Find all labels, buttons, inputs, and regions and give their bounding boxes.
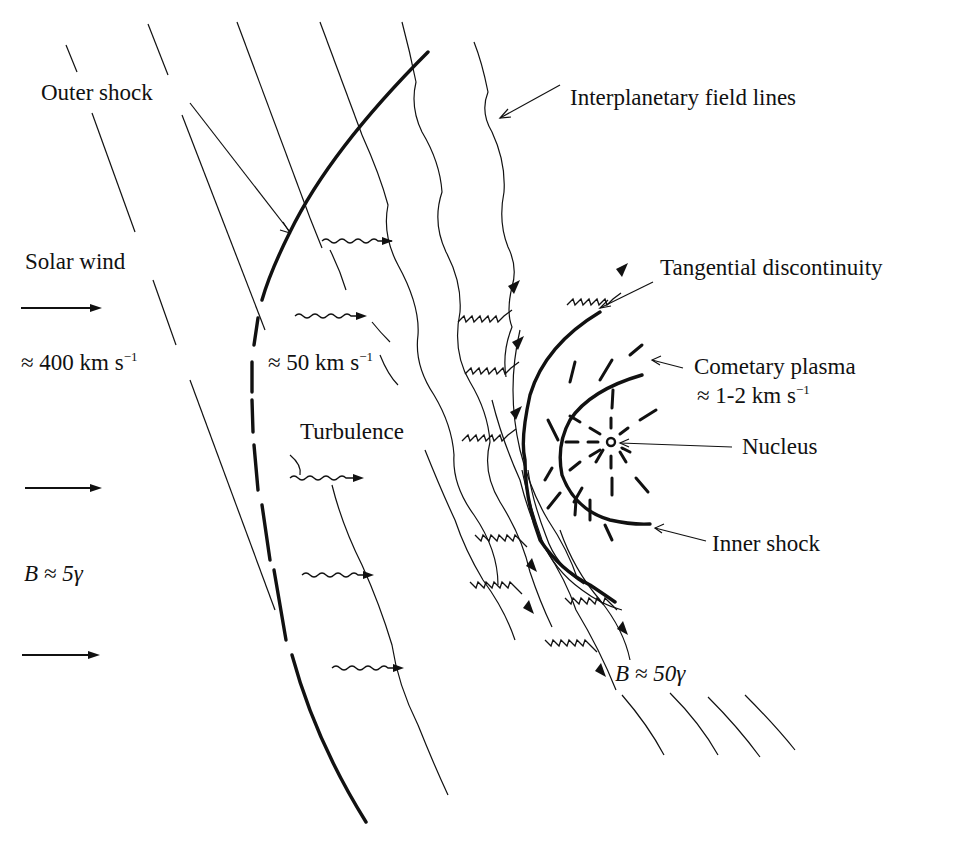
solar-wind-speed-exponent: −1 <box>124 349 138 364</box>
diagram-artwork <box>0 0 965 845</box>
label-turbulence: Turbulence <box>300 420 404 443</box>
cometary-plasma-speed-value: ≈ 1-2 km s <box>697 383 796 408</box>
label-cometary-plasma: Cometary plasma <box>694 355 856 378</box>
label-post-shock-speed: ≈ 50 km s−1 <box>268 350 373 374</box>
b-downstream-symbol: B <box>615 661 629 686</box>
label-outer-shock: Outer shock <box>41 81 153 104</box>
upstream-field-lines <box>66 22 362 610</box>
post-shock-speed-exponent: −1 <box>359 349 373 364</box>
post-shock-speed-value: ≈ 50 km s <box>268 350 359 375</box>
label-inner-shock: Inner shock <box>712 532 820 555</box>
wavy-field-lines <box>290 22 795 795</box>
label-tangential-discontinuity: Tangential discontinuity <box>660 256 883 279</box>
label-pointers <box>190 85 732 541</box>
b-upstream-symbol: B <box>24 561 38 586</box>
nucleus-marker <box>607 438 615 446</box>
label-nucleus: Nucleus <box>742 435 817 458</box>
b-downstream-value: ≈ 50γ <box>629 661 685 686</box>
label-b-upstream: B ≈ 5γ <box>24 562 83 585</box>
comet-solar-wind-diagram: Outer shock Interplanetary field lines S… <box>0 0 965 845</box>
label-b-downstream: B ≈ 50γ <box>615 662 685 685</box>
label-cometary-plasma-speed: ≈ 1-2 km s−1 <box>697 383 810 407</box>
label-solar-wind: Solar wind <box>25 250 125 273</box>
solar-wind-speed-value: ≈ 400 km s <box>21 350 124 375</box>
cometary-plasma-speed-exponent: −1 <box>796 382 810 397</box>
b-upstream-value: ≈ 5γ <box>38 561 83 586</box>
label-interplanetary-field-lines: Interplanetary field lines <box>570 86 796 109</box>
label-solar-wind-speed: ≈ 400 km s−1 <box>21 350 138 374</box>
turbulence-arrows <box>290 237 628 677</box>
